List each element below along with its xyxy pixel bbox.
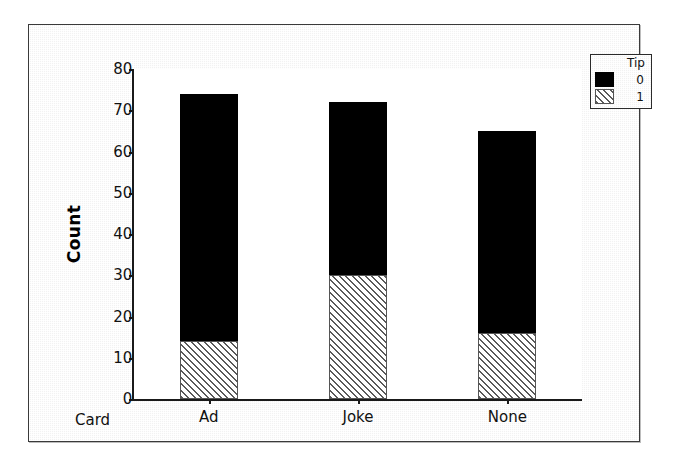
bar-segment-joke-tip-1[interactable] bbox=[329, 275, 387, 399]
x-tick-label: Ad bbox=[199, 408, 219, 426]
bar-joke[interactable] bbox=[329, 102, 387, 399]
bar-segment-joke-tip-0[interactable] bbox=[329, 102, 387, 275]
legend-label-0: 0 bbox=[636, 73, 647, 87]
figure-frame: Count Card 01020304050607080 AdJokeNone … bbox=[28, 24, 640, 442]
legend-entries: 01 bbox=[595, 72, 647, 104]
legend-entry-0[interactable]: 0 bbox=[595, 72, 647, 87]
bar-segment-ad-tip-1[interactable] bbox=[180, 341, 238, 399]
bar-none[interactable] bbox=[478, 131, 536, 399]
legend-entry-1[interactable]: 1 bbox=[595, 89, 647, 104]
x-tick-label: None bbox=[488, 408, 527, 426]
bar-segment-ad-tip-0[interactable] bbox=[180, 94, 238, 342]
x-tick-mark bbox=[209, 399, 211, 404]
x-tick-mark bbox=[358, 399, 360, 404]
bar-segment-none-tip-0[interactable] bbox=[478, 131, 536, 333]
x-tick-mark bbox=[507, 399, 509, 404]
x-tick-label: Joke bbox=[343, 408, 374, 426]
plot-area: 01020304050607080 AdJokeNone bbox=[132, 69, 582, 401]
bar-ad[interactable] bbox=[180, 94, 238, 399]
bar-segment-none-tip-1[interactable] bbox=[478, 333, 536, 399]
legend-title: Tip bbox=[595, 57, 647, 70]
y-axis-title: Count bbox=[63, 69, 85, 399]
legend-swatch-1 bbox=[595, 89, 614, 104]
legend-swatch-0 bbox=[595, 72, 614, 87]
legend-label-1: 1 bbox=[636, 90, 647, 104]
y-axis-title-text: Count bbox=[64, 205, 84, 264]
bars-layer bbox=[134, 69, 582, 399]
legend: Tip 01 bbox=[590, 54, 652, 109]
x-axis-title: Card bbox=[75, 411, 110, 429]
